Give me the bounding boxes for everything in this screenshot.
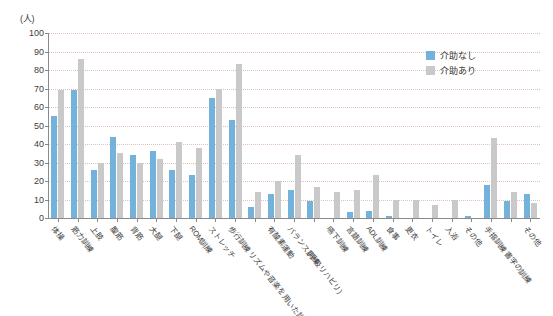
bar-group xyxy=(343,33,363,218)
bar xyxy=(491,138,497,218)
x-axis-label: その他 xyxy=(522,223,545,248)
x-axis-label-cell: 上肢 xyxy=(87,222,107,312)
x-axis-label-cell: 書字の訓練 xyxy=(501,222,521,312)
y-axis-tick-label: 30 xyxy=(34,158,44,168)
x-axis-labels: 体操筋力訓練上肢腹筋背筋大腿下腿ROM訓練ストレッチ歩行訓練リズムや音楽を用いた… xyxy=(48,222,540,312)
bar xyxy=(432,205,438,218)
y-axis-tick-label: 70 xyxy=(34,84,44,94)
bar xyxy=(91,170,97,218)
bar-group xyxy=(107,33,127,218)
x-axis-label-cell: トイレ xyxy=(422,222,442,312)
bar xyxy=(373,175,379,218)
legend-swatch-icon-1 xyxy=(426,66,435,75)
bar-group xyxy=(146,33,166,218)
bar-group xyxy=(68,33,88,218)
x-axis-label-cell: ストレッチ xyxy=(206,222,226,312)
bar-group xyxy=(48,33,68,218)
bar xyxy=(275,181,281,218)
bar-chart: (人) 0102030405060708090100 体操筋力訓練上肢腹筋背筋大… xyxy=(0,0,553,316)
x-axis-label: 下腿 xyxy=(167,223,185,242)
x-axis-label-cell: バランス訓練 xyxy=(284,222,304,312)
x-axis-label-cell: 腹筋 xyxy=(107,222,127,312)
bar xyxy=(58,90,64,218)
bar xyxy=(110,137,116,218)
legend: 介助なし 介助あり xyxy=(426,48,538,78)
bar xyxy=(236,64,242,218)
x-axis-label: 大腿 xyxy=(148,223,166,242)
bar xyxy=(137,163,143,219)
x-axis-label-cell: 筋力訓練 xyxy=(68,222,88,312)
bar xyxy=(150,151,156,218)
y-axis-unit-label: (人) xyxy=(20,12,34,25)
bar-group xyxy=(383,33,403,218)
bar xyxy=(393,200,399,219)
x-axis-label: 体操 xyxy=(49,223,67,242)
x-axis-label-cell: (呼吸リハビリ) xyxy=(304,222,324,312)
bar xyxy=(484,185,490,218)
x-axis-label-cell: 入浴 xyxy=(442,222,462,312)
x-axis-label: 腹筋 xyxy=(108,223,126,242)
bar-group xyxy=(245,33,265,218)
bar xyxy=(452,200,458,219)
bar-group xyxy=(265,33,285,218)
x-axis-label: 背筋 xyxy=(128,223,146,242)
x-axis-label-cell: 嚥下訓練 xyxy=(324,222,344,312)
legend-item-0[interactable]: 介助なし xyxy=(426,48,538,63)
y-axis-tick-label: 90 xyxy=(34,47,44,57)
y-axis-tick-label: 60 xyxy=(34,102,44,112)
bar-group xyxy=(225,33,245,218)
bar xyxy=(531,203,537,218)
x-axis-label: 食事 xyxy=(384,223,402,242)
bar xyxy=(98,163,104,219)
bar xyxy=(288,190,294,218)
bar xyxy=(366,211,372,218)
bar xyxy=(78,59,84,218)
bar xyxy=(511,192,517,218)
bar xyxy=(157,159,163,218)
x-axis-label-cell: ROM訓練 xyxy=(186,222,206,312)
x-axis-label-cell: ADL訓練 xyxy=(363,222,383,312)
x-axis-label: 上肢 xyxy=(89,223,107,242)
bar xyxy=(130,155,136,218)
bar xyxy=(255,192,261,218)
x-axis-label-cell: 体操 xyxy=(48,222,68,312)
bar xyxy=(504,201,510,218)
bar-group xyxy=(87,33,107,218)
y-axis-tick-label: 50 xyxy=(34,121,44,131)
bar-group xyxy=(127,33,147,218)
legend-item-1[interactable]: 介助あり xyxy=(426,63,538,78)
x-axis-label-cell: 下腿 xyxy=(166,222,186,312)
bar xyxy=(248,207,254,218)
legend-label-0: 介助なし xyxy=(440,49,476,62)
bar-group xyxy=(166,33,186,218)
bar-group xyxy=(304,33,324,218)
bar-group xyxy=(324,33,344,218)
bar-group xyxy=(363,33,383,218)
y-axis-tick-label: 20 xyxy=(34,176,44,186)
x-axis-label-cell: 手指訓練 xyxy=(481,222,501,312)
x-axis-label-cell: 食事 xyxy=(383,222,403,312)
bar xyxy=(334,192,340,218)
legend-swatch-icon-0 xyxy=(426,51,435,60)
bar xyxy=(51,116,57,218)
x-axis-label-cell: その他 xyxy=(461,222,481,312)
x-axis-label-cell: 言語訓練 xyxy=(343,222,363,312)
bar-group xyxy=(402,33,422,218)
bar xyxy=(354,190,360,218)
y-axis-tick-label: 0 xyxy=(39,213,44,223)
x-axis-label-cell: 更衣 xyxy=(402,222,422,312)
bar xyxy=(229,120,235,218)
bar xyxy=(196,148,202,218)
x-axis-label: 更衣 xyxy=(404,223,422,242)
bar xyxy=(524,194,530,218)
bar xyxy=(295,155,301,218)
bar-group xyxy=(284,33,304,218)
x-axis-label-cell: 歩行訓練 xyxy=(225,222,245,312)
bar xyxy=(176,142,182,218)
x-axis-label-cell: その他 xyxy=(521,222,541,312)
x-axis-label-cell: リズムや音楽を用いた訓練 xyxy=(245,222,265,312)
bar xyxy=(189,175,195,218)
y-axis-tick-label: 40 xyxy=(34,139,44,149)
bar xyxy=(216,89,222,219)
y-axis-tick-label: 10 xyxy=(34,195,44,205)
